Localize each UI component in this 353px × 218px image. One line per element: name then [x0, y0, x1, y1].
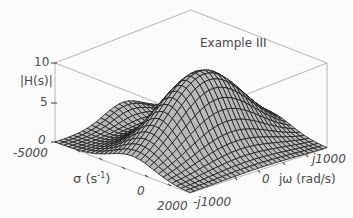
- z-tick-5: 5: [40, 96, 48, 108]
- z-axis-label: |H(s)|: [20, 75, 53, 87]
- omega-tick-j1000: j1000: [312, 153, 346, 165]
- omega-tick-0: 0: [262, 173, 270, 185]
- sigma-tick-0: 0: [137, 185, 145, 197]
- omega-axis-label: jω (rad/s): [279, 173, 336, 185]
- sigma-tick-neg5000: -5000: [13, 147, 48, 159]
- omega-tick-neg-j1000: -j1000: [193, 196, 231, 208]
- sigma-close: ): [105, 171, 110, 186]
- sigma-tick-2000: 2000: [157, 200, 188, 212]
- sigma-unit: (s: [85, 171, 97, 186]
- z-tick-10: 10: [34, 56, 49, 68]
- surface-plot: 10 |H(s)| 5 0 -5000 σ (s-1) 0 2000 -j100…: [0, 0, 353, 218]
- sigma-symbol: σ: [73, 171, 81, 186]
- chart-title: Example III: [200, 37, 267, 49]
- sigma-axis-label: σ (s-1): [73, 172, 110, 185]
- z-tick-0: 0: [38, 134, 46, 146]
